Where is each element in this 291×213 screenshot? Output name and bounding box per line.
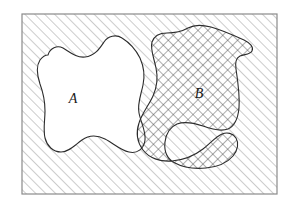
venn-diagram-figure: A B: [0, 0, 291, 213]
venn-diagram-canvas: A B: [0, 0, 291, 213]
region-a-label: A: [68, 91, 78, 106]
region-b-label: B: [195, 86, 204, 101]
